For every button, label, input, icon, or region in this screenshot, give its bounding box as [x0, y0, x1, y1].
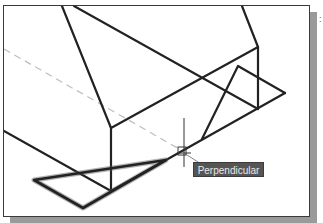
drawing-canvas[interactable] — [3, 5, 310, 217]
edge-top-diagonal — [74, 6, 258, 109]
right-triangle — [202, 66, 285, 139]
edge-left-slope — [62, 6, 111, 128]
drawing-viewport[interactable] — [3, 5, 310, 217]
edge-right-top — [242, 6, 258, 47]
edge-lower-left — [4, 131, 111, 191]
tracking-dashed-line — [4, 49, 181, 150]
cropped-text-fragment: : — [319, 14, 322, 24]
osnap-tooltip-perpendicular: Perpendicular — [193, 162, 264, 177]
edge-box-top — [111, 47, 258, 128]
